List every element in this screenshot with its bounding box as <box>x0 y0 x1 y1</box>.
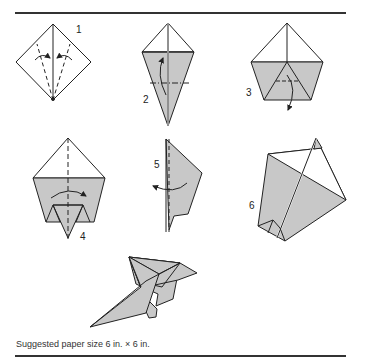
step-6-figure <box>258 138 346 241</box>
step-6-label: 6 <box>249 200 255 211</box>
step-3-label: 3 <box>246 87 252 98</box>
step-4-label: 4 <box>80 231 86 242</box>
final-airplane-figure <box>90 257 197 327</box>
step-5-label: 5 <box>154 159 160 170</box>
step-3-figure <box>251 23 323 110</box>
paper-size-caption: Suggested paper size 6 in. × 6 in. <box>16 339 150 349</box>
step-2-label: 2 <box>143 94 149 105</box>
origami-diagram: 1 2 3 4 5 6 <box>0 0 368 364</box>
step-5-figure <box>153 139 202 232</box>
step-1-label: 1 <box>76 24 82 35</box>
step-1-figure <box>16 24 91 101</box>
step-2-figure <box>142 23 194 126</box>
step-4-figure <box>33 138 105 240</box>
